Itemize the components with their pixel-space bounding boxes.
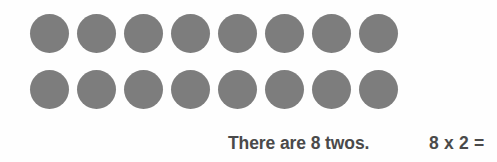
counter-circle-icon	[30, 14, 69, 53]
counter-circle-icon	[124, 70, 163, 109]
counter-circle-icon	[265, 14, 304, 53]
counter-circle-icon	[77, 70, 116, 109]
counter-circle-icon	[359, 14, 398, 53]
counter-array	[30, 14, 398, 109]
counter-circle-icon	[312, 14, 351, 53]
counter-circle-icon	[77, 14, 116, 53]
caption-row: There are 8 twos. 8 x 2 =	[0, 128, 497, 158]
counter-circle-icon	[124, 14, 163, 53]
counter-circle-icon	[171, 70, 210, 109]
counter-circle-icon	[265, 70, 304, 109]
counter-circle-icon	[218, 70, 257, 109]
group-description-text: There are 8 twos.	[228, 133, 369, 154]
counter-circle-icon	[171, 14, 210, 53]
multiplication-equation-text: 8 x 2 =	[429, 133, 484, 154]
counter-circle-icon	[312, 70, 351, 109]
counter-circle-icon	[30, 70, 69, 109]
counter-row-1	[30, 14, 398, 53]
counter-row-2	[30, 70, 398, 109]
counter-circle-icon	[359, 70, 398, 109]
counter-circle-icon	[218, 14, 257, 53]
worksheet-canvas: There are 8 twos. 8 x 2 =	[0, 0, 497, 162]
